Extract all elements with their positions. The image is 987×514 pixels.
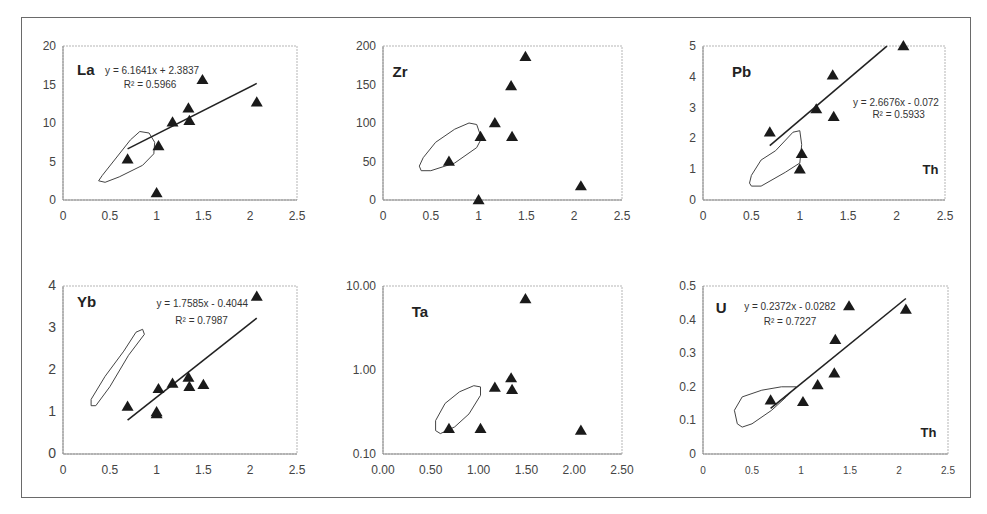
- y-tick-label: 0: [689, 193, 696, 207]
- field-outline: [436, 386, 481, 434]
- triangle-marker: [489, 117, 501, 127]
- x-tick-label: 2: [247, 209, 254, 223]
- plot-area: [63, 286, 297, 454]
- triangle-marker: [505, 80, 517, 90]
- regression-equation: y = 6.1641x + 2.3837: [105, 65, 199, 76]
- y-tick-label: 0.3: [679, 346, 696, 360]
- x-tick-label: 1.5: [518, 209, 535, 223]
- triangle-marker: [900, 304, 912, 314]
- x-tick-label: 0: [60, 463, 67, 477]
- trendline: [128, 318, 257, 420]
- x-tick-label: 0.5: [101, 209, 118, 223]
- y-tick-label: 10: [43, 116, 57, 130]
- y-tick-label: 20: [43, 39, 57, 53]
- y-tick-label: 0: [48, 445, 56, 461]
- y-tick-label: 0.4: [679, 313, 696, 327]
- y-tick-label: 100: [356, 116, 376, 130]
- triangle-marker: [152, 383, 164, 393]
- y-tick-label: 0.10: [353, 447, 377, 461]
- r-squared: R² = 0.5933: [872, 109, 925, 120]
- element-label: La: [77, 61, 95, 78]
- x-tick-label: 1: [153, 209, 160, 223]
- triangle-marker: [796, 148, 808, 158]
- x-tick-label: 1: [153, 463, 160, 477]
- x-tick-label: 0.5: [422, 209, 439, 223]
- y-tick-label: 2: [48, 361, 56, 377]
- triangle-marker: [828, 111, 840, 121]
- y-tick-label: 0.1: [679, 413, 696, 427]
- x-tick-label: 2.00: [563, 463, 587, 477]
- x-tick-label: 0.00: [371, 463, 395, 477]
- x-axis-label: Th: [920, 425, 936, 440]
- triangle-marker: [765, 394, 777, 404]
- triangle-marker: [475, 423, 487, 433]
- triangle-marker: [794, 163, 806, 173]
- x-tick-label: 1.5: [843, 465, 857, 476]
- triangle-marker: [197, 379, 209, 389]
- figure-caption: [22, 503, 962, 514]
- panel-zr: 00.511.522.5050100150200Zr: [356, 39, 631, 223]
- panel-la: 00.511.522.505101520Lay = 6.1641x + 2.38…: [43, 39, 306, 223]
- x-tick-label: 0.5: [743, 209, 760, 223]
- triangle-marker: [812, 379, 824, 389]
- x-tick-label: 1.5: [195, 463, 212, 477]
- y-tick-label: 2: [689, 131, 696, 145]
- x-tick-label: 1.50: [515, 463, 539, 477]
- x-tick-label: 2: [571, 209, 578, 223]
- x-tick-label: 0.5: [101, 463, 118, 477]
- regression-equation: y = 2.6676x - 0.072: [853, 97, 939, 108]
- triangle-marker: [843, 300, 855, 310]
- x-tick-label: 0: [380, 209, 387, 223]
- triangle-marker: [183, 381, 195, 391]
- x-tick-label: 0: [700, 209, 707, 223]
- x-tick-label: 0.5: [745, 465, 759, 476]
- r-squared: R² = 0.7227: [764, 316, 817, 327]
- regression-equation: y = 1.7585x - 0.4044: [157, 298, 249, 309]
- y-tick-label: 1: [48, 403, 56, 419]
- trendline: [128, 83, 257, 148]
- triangle-marker: [519, 293, 531, 303]
- y-tick-label: 0.5: [679, 279, 696, 293]
- element-label: Ta: [412, 303, 429, 320]
- triangle-marker: [575, 425, 587, 435]
- y-tick-label: 0: [689, 447, 696, 461]
- x-axis-label: Th: [923, 162, 939, 177]
- triangle-marker: [182, 102, 194, 112]
- y-tick-label: 0: [49, 193, 56, 207]
- x-tick-label: 2.5: [614, 209, 631, 223]
- x-tick-label: 2: [893, 209, 900, 223]
- triangle-marker: [519, 51, 531, 61]
- triangle-marker: [489, 381, 501, 391]
- x-tick-label: 2.5: [289, 209, 306, 223]
- y-tick-label: 5: [49, 155, 56, 169]
- x-tick-label: 2.5: [289, 463, 306, 477]
- triangle-marker: [506, 384, 518, 394]
- triangle-marker: [122, 401, 134, 411]
- x-tick-label: 1.00: [467, 463, 491, 477]
- triangle-marker: [167, 116, 179, 126]
- field-outline: [91, 329, 144, 405]
- triangle-marker: [828, 367, 840, 377]
- x-tick-label: 1: [796, 209, 803, 223]
- triangle-marker: [506, 131, 518, 141]
- panel-pb: 00.511.522.5012345Pby = 2.6676x - 0.072R…: [689, 39, 953, 223]
- element-label: Yb: [77, 293, 96, 310]
- x-tick-label: 2: [896, 465, 902, 476]
- scatter-panels: 00.511.522.505101520Lay = 6.1641x + 2.38…: [0, 0, 987, 514]
- field-outline: [750, 131, 802, 186]
- x-tick-label: 1: [475, 209, 482, 223]
- y-tick-label: 150: [356, 78, 376, 92]
- x-tick-label: 2: [247, 463, 254, 477]
- triangle-marker: [505, 372, 517, 382]
- x-tick-label: 1: [798, 465, 804, 476]
- y-tick-label: 0.2: [679, 380, 696, 394]
- triangle-marker: [575, 180, 587, 190]
- y-tick-label: 4: [689, 70, 696, 84]
- y-tick-label: 3: [48, 319, 56, 335]
- triangle-marker: [251, 291, 263, 301]
- triangle-marker: [810, 103, 822, 113]
- x-tick-label: 0.50: [419, 463, 443, 477]
- x-tick-label: 1.5: [195, 209, 212, 223]
- r-squared: R² = 0.5966: [124, 79, 177, 90]
- triangle-marker: [251, 96, 263, 106]
